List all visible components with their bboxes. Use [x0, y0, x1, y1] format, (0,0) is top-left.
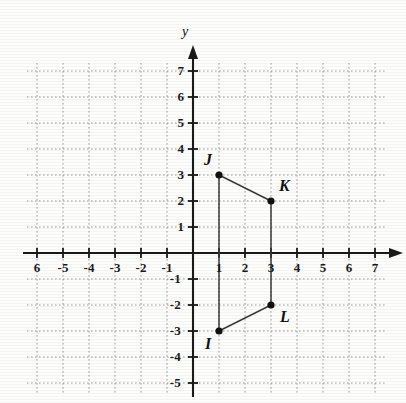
x-axis-tick-label: -5	[58, 260, 69, 276]
x-axis-tick-label: 2	[242, 260, 249, 276]
y-axis-tick-label: -1	[170, 271, 181, 287]
coordinate-plane-figure: 6-5-4-3-2-112345677654321-1-2-3-4-5yJKLI	[0, 0, 406, 403]
polygon-edge	[219, 175, 271, 201]
y-axis-tick-label: 5	[177, 115, 184, 131]
y-axis-tick-label: 7	[177, 63, 184, 79]
x-axis-tick-label: 7	[372, 260, 379, 276]
x-axis-tick-label: -3	[110, 260, 121, 276]
y-axis-tick-label: -4	[170, 349, 181, 365]
point-marker-i[interactable]	[215, 327, 222, 334]
y-axis-arrowhead	[188, 45, 198, 59]
y-axis-name: y	[182, 24, 188, 40]
point-label-i: I	[205, 335, 211, 353]
y-axis-tick-label: 4	[177, 141, 184, 157]
plot-canvas	[0, 0, 406, 403]
point-marker-l[interactable]	[267, 301, 274, 308]
x-axis-tick-label: 3	[268, 260, 275, 276]
x-axis-tick-label: 1	[216, 260, 223, 276]
y-axis-tick-label: 1	[177, 219, 184, 235]
y-axis-tick-label: -2	[170, 297, 181, 313]
x-axis-tick-label: -4	[84, 260, 95, 276]
point-marker-k[interactable]	[267, 197, 274, 204]
x-axis-tick-label: 5	[320, 260, 327, 276]
x-axis-tick-label: 6	[34, 260, 41, 276]
point-marker-j[interactable]	[215, 171, 222, 178]
point-label-j: J	[204, 151, 212, 169]
x-axis-tick-label: 6	[346, 260, 353, 276]
y-axis-tick-label: 6	[177, 89, 184, 105]
y-axis-tick-label: -3	[170, 323, 181, 339]
point-label-k: K	[279, 177, 290, 195]
y-axis-tick-label: 2	[177, 193, 184, 209]
y-axis-tick-label: -5	[170, 375, 181, 391]
y-axis-tick-label: 3	[177, 167, 184, 183]
x-axis-tick-label: 4	[294, 260, 301, 276]
point-label-l: L	[280, 308, 290, 326]
x-axis-arrowhead	[389, 248, 403, 258]
x-axis-tick-label: -2	[136, 260, 147, 276]
